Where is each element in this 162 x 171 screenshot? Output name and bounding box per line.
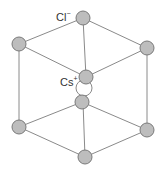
- cl-atom-lower-left: [12, 120, 26, 134]
- cl-label: Cl−: [56, 10, 70, 23]
- cl-atom-lower-center: [75, 95, 89, 109]
- edge-lowercenter-lowerright: [82, 102, 147, 130]
- cl-atom-upper-right: [140, 41, 154, 55]
- cs-label: Cs+: [60, 75, 78, 88]
- edge-upperleft-uppercenter: [19, 44, 86, 77]
- cscl-unit-cell-diagram: Cl− Cs+: [0, 0, 162, 171]
- cl-atom-bottom: [78, 150, 92, 164]
- edge-lowercenter-bottom: [83, 102, 85, 157]
- edge-lowerleft-bottom: [19, 127, 85, 157]
- cl-atom-upper-left: [12, 37, 26, 51]
- edge-upperright-uppercenter: [86, 48, 147, 77]
- edge-top-uppercenter: [83, 18, 86, 77]
- edge-top-upperleft: [19, 18, 83, 44]
- edge-lowerright-bottom: [85, 130, 147, 157]
- edge-top-upperright: [83, 18, 147, 48]
- cl-atom-lower-right: [140, 123, 154, 137]
- cl-atom-upper-center: [79, 70, 93, 84]
- cl-atom-top: [76, 11, 90, 25]
- edge-lowercenter-lowerleft: [19, 102, 82, 127]
